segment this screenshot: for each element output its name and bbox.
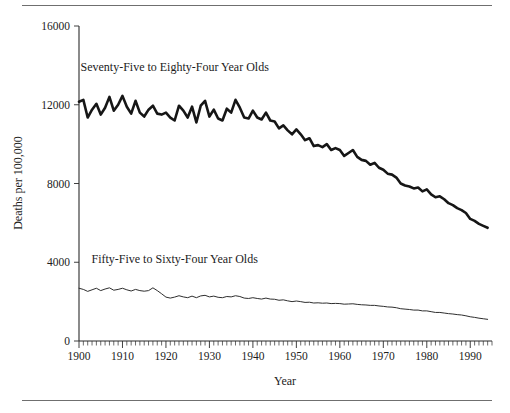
x-tick-label: 1910 bbox=[111, 350, 134, 362]
x-tick-label: 1900 bbox=[68, 350, 91, 362]
series-annotations: Seventy-Five to Eighty-Four Year OldsFif… bbox=[80, 60, 269, 266]
series-line-fifty-five-to-sixty-four bbox=[79, 288, 488, 320]
figure-container: 0400080001200016000 19001910192019301940… bbox=[0, 0, 510, 413]
x-tick-label: 1950 bbox=[285, 350, 308, 362]
x-tick-label: 1940 bbox=[241, 350, 264, 362]
y-axis-title: Deaths per 100,000 bbox=[11, 136, 25, 230]
y-tick-label: 12000 bbox=[41, 99, 70, 111]
y-tick-label: 0 bbox=[64, 335, 70, 347]
x-tick-label: 1990 bbox=[459, 350, 482, 362]
y-tick-labels: 0400080001200016000 bbox=[41, 20, 70, 347]
x-minor-tick-marks bbox=[79, 341, 492, 348]
series-label: Seventy-Five to Eighty-Four Year Olds bbox=[80, 60, 269, 74]
x-tick-labels: 1900191019201930194019501960197019801990 bbox=[68, 350, 483, 362]
series-label: Fifty-Five to Sixty-Four Year Olds bbox=[91, 252, 258, 266]
y-tick-label: 8000 bbox=[47, 178, 70, 190]
x-tick-label: 1980 bbox=[415, 350, 438, 362]
y-tick-label: 4000 bbox=[47, 256, 70, 268]
series-line-seventy-five-to-eighty-four bbox=[79, 96, 488, 228]
x-tick-label: 1930 bbox=[198, 350, 221, 362]
line-chart: 0400080001200016000 19001910192019301940… bbox=[0, 0, 510, 413]
x-tick-label: 1960 bbox=[328, 350, 351, 362]
y-tick-marks bbox=[74, 26, 79, 341]
x-tick-label: 1970 bbox=[372, 350, 395, 362]
x-tick-label: 1920 bbox=[154, 350, 177, 362]
y-tick-label: 16000 bbox=[41, 20, 70, 32]
x-axis-title: Year bbox=[274, 374, 296, 388]
data-series-group bbox=[79, 96, 488, 319]
